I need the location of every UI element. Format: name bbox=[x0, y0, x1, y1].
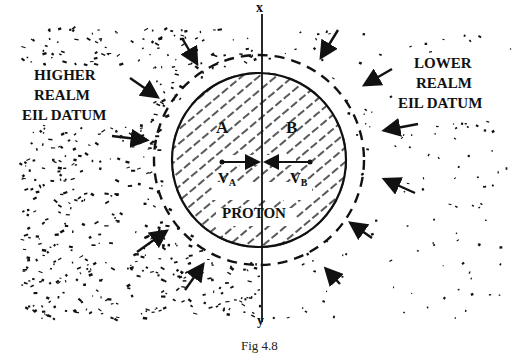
proton-diagram-figure: x y A B VA VB PROTON HIGHER REALM EIL DA… bbox=[0, 0, 518, 357]
lower-realm-label: LOWER REALM EIL DATUM bbox=[398, 55, 482, 111]
svg-text:EIL DATUM: EIL DATUM bbox=[22, 107, 106, 123]
svg-text:LOWER: LOWER bbox=[414, 55, 472, 71]
region-b-label: B bbox=[286, 118, 297, 137]
axis-y-label: y bbox=[257, 313, 264, 328]
svg-text:REALM: REALM bbox=[416, 75, 472, 91]
svg-text:HIGHER: HIGHER bbox=[34, 67, 96, 83]
higher-realm-label: HIGHER REALM EIL DATUM bbox=[22, 67, 106, 123]
axis-x-label: x bbox=[256, 0, 263, 15]
figure-caption: Fig 4.8 bbox=[241, 338, 278, 353]
svg-text:REALM: REALM bbox=[34, 87, 90, 103]
proton-label: PROTON bbox=[222, 205, 286, 221]
svg-text:EIL DATUM: EIL DATUM bbox=[398, 95, 482, 111]
region-a-label: A bbox=[216, 118, 229, 137]
